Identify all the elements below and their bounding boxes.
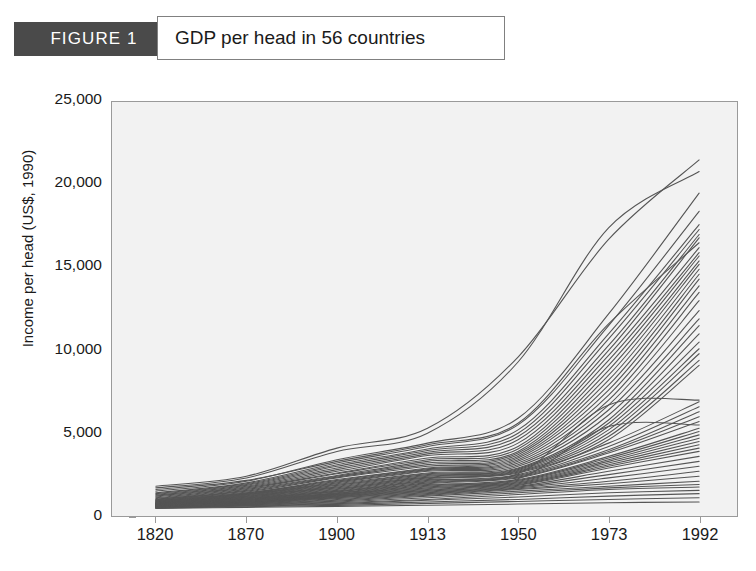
x-axis-tick-mark bbox=[428, 517, 429, 523]
x-axis-tick-mark bbox=[700, 517, 701, 523]
x-axis-tick-label: 1870 bbox=[206, 525, 286, 544]
x-axis-tick-label: 1820 bbox=[115, 525, 195, 544]
x-axis-tick-mark bbox=[246, 517, 247, 523]
x-axis-tick-label: 1973 bbox=[569, 525, 649, 544]
series-line bbox=[156, 172, 699, 488]
x-axis-tick-label: 1913 bbox=[388, 525, 468, 544]
series-lines-svg bbox=[112, 102, 737, 516]
figure-title: GDP per head in 56 countries bbox=[158, 27, 425, 49]
x-axis-tick-mark bbox=[155, 517, 156, 523]
x-axis-tick-label: 1900 bbox=[297, 525, 377, 544]
figure-title-box: GDP per head in 56 countries bbox=[157, 16, 505, 60]
x-axis-tick-label: 1950 bbox=[478, 525, 558, 544]
series-line bbox=[156, 286, 699, 501]
chart-container: Income per head (US$, 1990) 25,00020,000… bbox=[0, 72, 756, 571]
figure-header: FIGURE 1 GDP per head in 56 countries bbox=[0, 0, 756, 72]
x-axis-tick-label: 1992 bbox=[660, 525, 740, 544]
plot-area bbox=[111, 101, 738, 517]
series-line bbox=[156, 279, 699, 501]
x-axis-tick-mark bbox=[337, 517, 338, 523]
series-line bbox=[156, 230, 699, 495]
figure-number-label: FIGURE 1 bbox=[50, 29, 137, 49]
x-axis-tick-mark bbox=[518, 517, 519, 523]
series-line bbox=[156, 269, 699, 500]
x-axis-tick-mark bbox=[609, 517, 610, 523]
figure-number-badge: FIGURE 1 bbox=[14, 22, 174, 56]
